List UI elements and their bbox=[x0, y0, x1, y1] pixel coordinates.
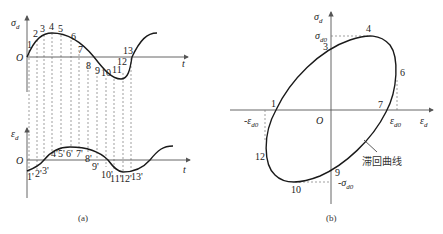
svg-text:8': 8' bbox=[85, 153, 92, 164]
svg-text:5: 5 bbox=[58, 23, 63, 34]
svg-text:6: 6 bbox=[400, 67, 405, 78]
svg-text:7': 7' bbox=[76, 148, 83, 159]
svg-text:3: 3 bbox=[40, 23, 45, 34]
curve-leader-line bbox=[364, 140, 377, 152]
svg-text:4: 4 bbox=[49, 21, 54, 32]
svg-text:4': 4' bbox=[51, 148, 58, 159]
svg-text:9': 9' bbox=[92, 161, 99, 172]
x-axis-label: t bbox=[182, 58, 185, 69]
origin-label: O bbox=[16, 52, 23, 63]
y-axis-label: σd bbox=[314, 11, 323, 25]
caption-a: (a) bbox=[78, 213, 88, 223]
stress-curve bbox=[27, 33, 157, 79]
x-axis-label: εd bbox=[420, 115, 428, 129]
y-axis-label: εd bbox=[11, 128, 19, 142]
x-axis-label: t bbox=[183, 164, 186, 175]
svg-text:6: 6 bbox=[71, 31, 76, 42]
neg-eps-d0-label: -εd0 bbox=[244, 115, 259, 129]
svg-text:3': 3' bbox=[42, 165, 49, 176]
panel-a: σd O t 1 2 3 4 5 6 7 8 9 10 11 12 13 bbox=[11, 16, 190, 223]
svg-text:2': 2' bbox=[35, 168, 42, 179]
svg-text:12: 12 bbox=[117, 56, 127, 67]
svg-text:4: 4 bbox=[366, 23, 371, 34]
svg-text:1: 1 bbox=[27, 39, 32, 50]
svg-text:1: 1 bbox=[271, 98, 276, 109]
eps-d0-label: εd0 bbox=[390, 115, 401, 129]
svg-text:5': 5' bbox=[58, 148, 65, 159]
figure-canvas: σd O t 1 2 3 4 5 6 7 8 9 10 11 12 13 bbox=[0, 0, 443, 234]
svg-text:7: 7 bbox=[78, 44, 83, 55]
point-labels: 1 2 3 4 5 6 7 8 9 10 11 12 13 bbox=[27, 21, 133, 78]
origin-label: O bbox=[316, 115, 323, 126]
svg-text:13': 13' bbox=[131, 171, 143, 182]
svg-text:6': 6' bbox=[66, 148, 73, 159]
svg-text:3: 3 bbox=[323, 41, 328, 52]
svg-text:8: 8 bbox=[86, 60, 91, 71]
svg-text:10: 10 bbox=[291, 184, 301, 195]
svg-text:13: 13 bbox=[123, 45, 133, 56]
svg-text:1': 1' bbox=[27, 171, 34, 182]
y-axis-label: σd bbox=[11, 17, 20, 31]
strain-curve bbox=[27, 146, 173, 172]
stress-time-plot: σd O t 1 2 3 4 5 6 7 8 9 10 11 12 13 bbox=[11, 16, 188, 92]
svg-text:2: 2 bbox=[33, 28, 38, 39]
point-labels: 1' 2' 3' 4' 5' 6' 7' 8' 9' 10' 11' 12' 1… bbox=[27, 148, 143, 184]
panel-b: 滞回曲线 σd εd O σd0 -σd0 εd0 -εd0 1 3 4 6 7… bbox=[230, 11, 433, 223]
svg-text:9: 9 bbox=[95, 65, 100, 76]
caption-b: (b) bbox=[326, 213, 337, 223]
hysteresis-curve-label: 滞回曲线 bbox=[362, 155, 402, 167]
strain-time-plot: εd O t 1' 2' 3' 4' 5' 6' 7' 8' 9' 10' 11… bbox=[11, 128, 190, 198]
svg-text:7: 7 bbox=[378, 99, 383, 110]
svg-text:10: 10 bbox=[101, 67, 111, 78]
svg-text:9: 9 bbox=[335, 167, 340, 178]
svg-text:12: 12 bbox=[255, 151, 265, 162]
origin-label: O bbox=[16, 155, 23, 166]
neg-sigma-d0-label: -σd0 bbox=[338, 177, 354, 191]
